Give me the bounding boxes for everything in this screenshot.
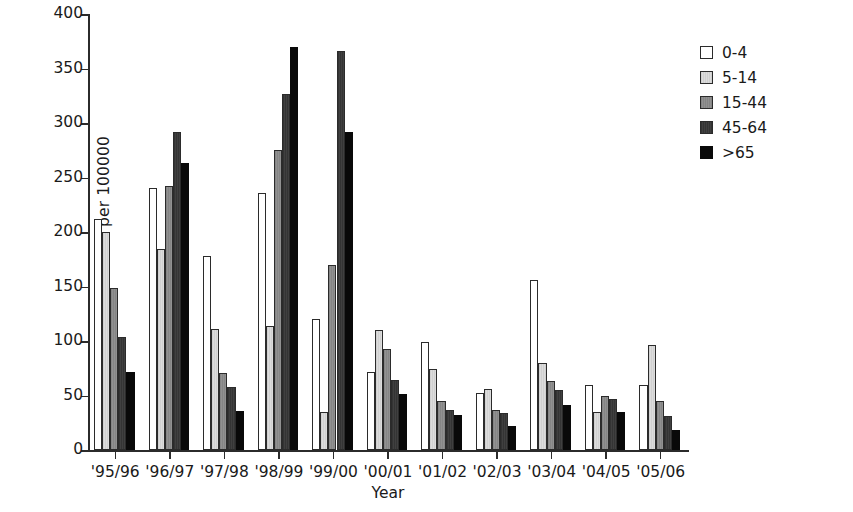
- legend-item: 45-64: [700, 115, 767, 140]
- legend-swatch-icon: [700, 146, 713, 159]
- bar-group: [639, 14, 680, 450]
- bar: [320, 412, 328, 450]
- legend-label: >65: [722, 144, 755, 162]
- bar: [538, 363, 546, 450]
- legend-item: 15-44: [700, 90, 767, 115]
- bar: [609, 399, 617, 450]
- x-axis-tick-label: '03/04: [527, 463, 576, 481]
- x-axis-tick-label: '98/99: [254, 463, 303, 481]
- bar-group: [258, 14, 299, 450]
- bar: [211, 329, 219, 450]
- bar: [118, 337, 126, 450]
- bar-group: [149, 14, 190, 450]
- x-axis-tick-mark: [605, 451, 607, 459]
- x-axis-tick-mark: [115, 451, 117, 459]
- y-axis-line: [88, 14, 90, 450]
- y-axis-tick-label: 50: [63, 386, 83, 404]
- bar: [165, 186, 173, 450]
- bar: [672, 430, 680, 450]
- plot-area: 050100150200250300350400 '95/96'96/97'97…: [88, 14, 688, 450]
- y-axis-tick-label: 250: [53, 168, 83, 186]
- bar: [617, 412, 625, 450]
- bar: [203, 256, 211, 450]
- bar: [290, 47, 298, 450]
- legend: 0-45-1415-4445-64>65: [700, 40, 767, 165]
- y-axis-tick-label: 200: [53, 222, 83, 240]
- legend-label: 0-4: [722, 44, 747, 62]
- bar: [484, 389, 492, 450]
- legend-swatch-icon: [700, 121, 713, 134]
- legend-label: 5-14: [722, 69, 757, 87]
- bar: [181, 163, 189, 450]
- bar: [126, 372, 134, 450]
- bar-group: [367, 14, 408, 450]
- x-axis-tick-label: '02/03: [473, 463, 522, 481]
- bar: [110, 288, 118, 450]
- bar: [274, 150, 282, 450]
- y-axis-tick-label: 150: [53, 277, 83, 295]
- bar-group: [421, 14, 462, 450]
- x-axis-tick-mark: [333, 451, 335, 459]
- x-axis-title: Year: [88, 484, 688, 502]
- bar: [429, 369, 437, 450]
- bar: [421, 342, 429, 450]
- bar-group: [312, 14, 353, 450]
- bar: [367, 372, 375, 450]
- x-axis-tick-mark: [551, 451, 553, 459]
- bar: [492, 410, 500, 450]
- bar: [508, 426, 516, 450]
- bar-group: [203, 14, 244, 450]
- bar: [476, 393, 484, 450]
- bar: [601, 396, 609, 451]
- legend-swatch-icon: [700, 71, 713, 84]
- x-axis-tick-label: '99/00: [309, 463, 358, 481]
- bar: [648, 345, 656, 450]
- bar-group: [94, 14, 135, 450]
- bar-group: [530, 14, 571, 450]
- bar: [157, 249, 165, 450]
- bar: [328, 265, 336, 450]
- bar: [530, 280, 538, 450]
- bar: [258, 193, 266, 450]
- x-axis-tick-label: '04/05: [582, 463, 631, 481]
- x-axis-tick-mark: [442, 451, 444, 459]
- bar: [94, 219, 102, 450]
- x-axis-tick-mark: [169, 451, 171, 459]
- legend-swatch-icon: [700, 96, 713, 109]
- x-axis-tick-label: '95/96: [91, 463, 140, 481]
- bar: [437, 401, 445, 450]
- x-axis-tick-mark: [660, 451, 662, 459]
- x-axis-tick-mark: [278, 451, 280, 459]
- x-axis-tick-label: '97/98: [200, 463, 249, 481]
- bar: [555, 390, 563, 450]
- y-axis-tick-label: 100: [53, 331, 83, 349]
- x-axis-tick-mark: [224, 451, 226, 459]
- bar: [102, 232, 110, 450]
- bar: [375, 330, 383, 450]
- bar-chart-figure: Maximum rate per 100000 0501001502002503…: [0, 0, 853, 512]
- x-axis-tick-label: '96/97: [145, 463, 194, 481]
- legend-item: 5-14: [700, 65, 767, 90]
- legend-item: >65: [700, 140, 767, 165]
- bar: [547, 381, 555, 450]
- bar: [173, 132, 181, 450]
- x-axis-tick-mark: [496, 451, 498, 459]
- bar: [446, 410, 454, 450]
- bar: [656, 401, 664, 450]
- bar: [149, 188, 157, 450]
- bar: [399, 394, 407, 450]
- bar: [391, 380, 399, 450]
- x-axis-tick-label: '01/02: [418, 463, 467, 481]
- legend-swatch-icon: [700, 46, 713, 59]
- x-axis-tick-mark: [387, 451, 389, 459]
- bar: [219, 373, 227, 450]
- bar: [563, 405, 571, 450]
- y-axis-tick-label: 0: [73, 440, 83, 458]
- y-axis-tick-label: 350: [53, 59, 83, 77]
- bar: [312, 319, 320, 450]
- bar: [639, 385, 647, 450]
- y-axis-tick-label: 400: [53, 4, 83, 22]
- bar: [282, 94, 290, 450]
- legend-item: 0-4: [700, 40, 767, 65]
- bar: [664, 416, 672, 450]
